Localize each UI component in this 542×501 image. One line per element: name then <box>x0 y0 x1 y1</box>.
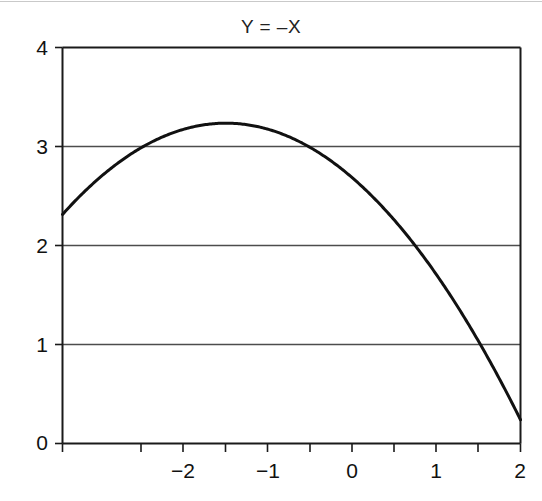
chart-figure: Y = –X 4 3 2 1 0 −2 −1 0 1 2 <box>0 0 542 501</box>
data-series-curve <box>63 123 521 420</box>
y-axis-ticks <box>55 48 63 444</box>
plot-area <box>0 0 542 501</box>
gridlines-horizontal <box>62 147 520 345</box>
x-axis-ticks <box>63 444 521 453</box>
